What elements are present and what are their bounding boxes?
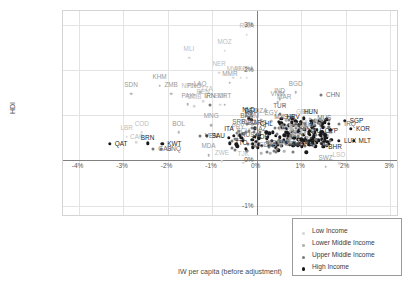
data-point — [208, 103, 211, 106]
point-label: SDN — [124, 82, 138, 88]
x-tick-label: -3% — [116, 162, 128, 169]
x-tick-label: 2% — [340, 162, 349, 169]
data-point — [303, 132, 306, 135]
y-tick-label: 2% — [240, 65, 254, 72]
point-label: ITA — [224, 126, 233, 132]
data-point — [246, 76, 249, 79]
data-point — [232, 134, 235, 137]
data-point — [108, 142, 111, 145]
point-label: SAU — [212, 132, 225, 138]
gridline-horizontal — [63, 206, 397, 207]
x-tick-label: 1% — [295, 162, 304, 169]
legend-item-c0[interactable]: Low Income — [299, 224, 395, 236]
data-point — [266, 151, 269, 154]
legend-label: Low Income — [312, 227, 348, 234]
point-label: BGD — [289, 81, 303, 87]
data-point — [269, 152, 272, 155]
data-point — [246, 33, 249, 36]
data-point — [349, 127, 352, 130]
data-point — [231, 147, 234, 150]
data-point — [276, 132, 279, 135]
y-axis-title: HDI — [9, 102, 16, 114]
gridline-vertical — [168, 11, 169, 215]
point-label: UKR — [277, 140, 291, 146]
data-point — [152, 147, 155, 150]
data-point — [294, 91, 297, 94]
data-point — [210, 124, 213, 127]
data-point — [306, 136, 309, 139]
data-point — [223, 50, 226, 53]
legend-item-c3[interactable]: High Income — [299, 260, 395, 272]
point-label: KHM — [152, 74, 166, 80]
point-label: GMB — [187, 94, 202, 100]
data-point — [202, 100, 205, 103]
gridline-horizontal — [63, 25, 397, 26]
point-label: NTU — [308, 127, 321, 133]
data-point — [318, 122, 321, 125]
point-label: MNG — [204, 113, 219, 119]
data-point — [223, 103, 226, 106]
scatter-chart-figure: HDI IW per capita (before adjustment) RW… — [0, 0, 416, 288]
data-point — [305, 151, 308, 154]
data-point — [146, 141, 149, 144]
x-tick-label: 3% — [384, 162, 393, 169]
point-label: LBR — [120, 125, 132, 131]
point-label: MRT — [218, 93, 232, 99]
legend-label: Lower Middle Income — [312, 239, 375, 246]
data-point — [135, 141, 138, 144]
point-label: TTO — [235, 140, 248, 146]
point-label: RUS — [241, 132, 255, 138]
y-tick-label: -1% — [240, 201, 254, 208]
data-point — [177, 131, 180, 134]
data-point — [207, 154, 210, 157]
y-tick-label: 1% — [240, 111, 254, 118]
data-point — [170, 93, 173, 96]
data-point — [130, 93, 133, 96]
plot-area: RWAMOZMLINERMWIAFGUGAMMRKHMBGDCHNSDNZMBN… — [62, 10, 398, 216]
data-point — [158, 84, 161, 87]
point-label: IRN — [204, 93, 215, 99]
gridline-horizontal — [63, 115, 397, 116]
point-label: MLI — [184, 46, 195, 52]
point-label: BOL — [172, 121, 185, 127]
point-label: KAZ — [254, 126, 266, 132]
point-label: MAR — [277, 94, 291, 100]
data-point — [125, 136, 128, 139]
data-point — [338, 123, 341, 126]
y-tick-label: 3% — [240, 20, 254, 27]
legend-dot-icon — [299, 257, 308, 275]
point-label: MUS — [317, 115, 331, 121]
point-label: LSO — [333, 151, 346, 157]
data-point — [274, 127, 277, 130]
point-label: GNQ — [166, 145, 181, 151]
data-point — [221, 160, 224, 163]
data-point — [186, 103, 189, 106]
gridline-vertical — [79, 11, 80, 215]
point-label: KOR — [356, 126, 370, 132]
data-point — [193, 105, 196, 108]
point-label: CYP — [325, 128, 338, 134]
data-point — [234, 148, 237, 151]
data-point — [260, 152, 263, 155]
point-label: ZMB — [164, 82, 178, 88]
legend-item-c2[interactable]: Upper Middle Income — [299, 248, 395, 260]
point-label: QAT — [115, 140, 128, 146]
data-point — [229, 81, 232, 84]
data-point — [188, 56, 191, 59]
gridline-vertical — [123, 11, 124, 215]
point-label: LUX — [344, 138, 356, 144]
data-point — [324, 165, 327, 168]
point-label: IRQ — [344, 121, 355, 127]
data-point — [320, 94, 323, 97]
x-tick-label: 0% — [251, 162, 260, 169]
point-label: ZWE — [215, 149, 229, 155]
data-point — [198, 134, 201, 137]
legend-item-c1[interactable]: Lower Middle Income — [299, 236, 395, 248]
point-label: SWZ — [318, 155, 332, 161]
data-point — [239, 76, 242, 79]
point-label: MDA — [201, 143, 215, 149]
gridline-vertical — [346, 11, 347, 215]
point-label: UZB — [264, 141, 277, 147]
point-label: BHR — [328, 144, 342, 150]
point-label: HUN — [304, 109, 318, 115]
